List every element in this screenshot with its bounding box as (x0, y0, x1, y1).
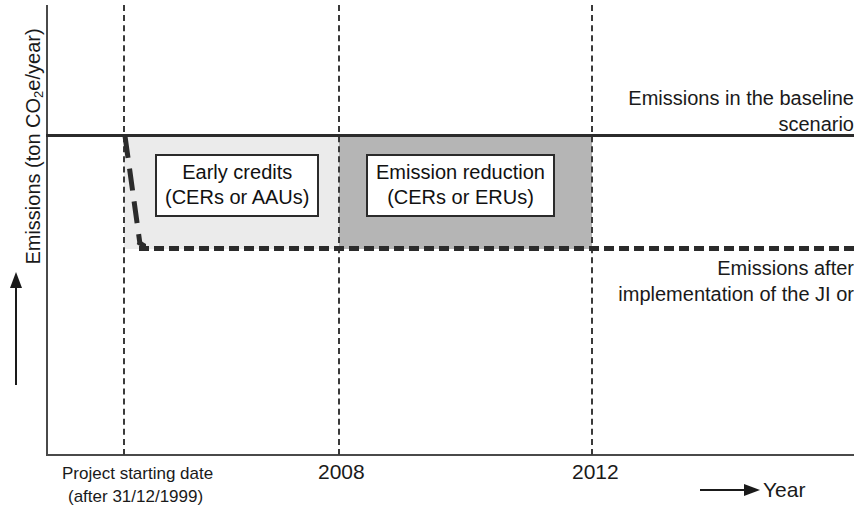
project-annotation-line2: implementation of the JI or (600, 281, 854, 307)
y-axis-title-main: Emissions (ton CO (22, 98, 44, 265)
x-axis-arrow-icon (700, 481, 762, 499)
baseline-annotation-line2: scenario (620, 111, 854, 137)
project-emissions-drop (120, 132, 146, 252)
y-axis-title-tail: e/year) (22, 28, 44, 90)
tick-project-start: Project starting date (after 31/12/1999) (62, 462, 213, 508)
project-emissions-line (139, 246, 854, 251)
y-axis-arrow-icon (7, 270, 25, 385)
guide-2012 (591, 5, 593, 455)
emission-reduction-line2: (CERs or ERUs) (376, 185, 545, 210)
x-axis-title-group: Year (700, 478, 805, 502)
y-axis-line (46, 5, 48, 456)
x-axis-line (46, 454, 854, 456)
project-annotation: Emissions after implementation of the JI… (600, 255, 854, 307)
x-axis-title: Year (763, 478, 805, 502)
emissions-baseline-diagram: Early credits (CERs or AAUs) Emission re… (0, 0, 854, 512)
y-axis-title-subscript: 2 (31, 91, 46, 98)
tick-project-start-line2: (after 31/12/1999) (62, 485, 213, 508)
emission-reduction-line1: Emission reduction (376, 160, 545, 185)
tick-2012: 2012 (572, 459, 619, 484)
baseline-annotation: Emissions in the baseline scenario (620, 85, 854, 137)
tick-2008: 2008 (318, 459, 365, 484)
y-axis-title: Emissions (ton CO2e/year) (22, 22, 45, 272)
emission-reduction-callout: Emission reduction (CERs or ERUs) (366, 154, 555, 217)
guide-2008 (338, 5, 340, 455)
tick-project-start-line1: Project starting date (62, 462, 213, 485)
early-credits-line2: (CERs or AAUs) (165, 185, 309, 210)
baseline-annotation-line1: Emissions in the baseline (620, 85, 854, 111)
early-credits-line1: Early credits (165, 160, 309, 185)
project-annotation-line1: Emissions after (600, 255, 854, 281)
early-credits-callout: Early credits (CERs or AAUs) (155, 154, 319, 217)
